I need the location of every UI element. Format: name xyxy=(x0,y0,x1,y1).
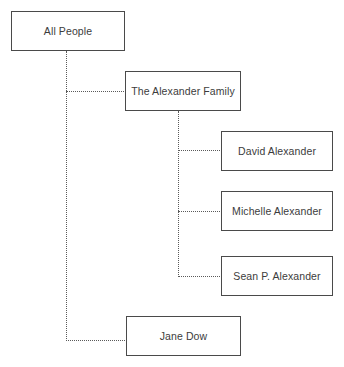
node-jane-dow-label: Jane Dow xyxy=(160,331,208,342)
node-david-alexander[interactable]: David Alexander xyxy=(221,131,333,171)
node-alexander-family-label: The Alexander Family xyxy=(131,86,235,97)
connector-alexander-family-to-michelle xyxy=(178,211,222,212)
node-david-alexander-label: David Alexander xyxy=(238,146,316,157)
connector-alexander-family-to-sean xyxy=(178,276,222,277)
node-sean-p-alexander-label: Sean P. Alexander xyxy=(233,271,320,282)
connector-all-people-to-jane-dow xyxy=(66,340,127,341)
family-tree-diagram: All People The Alexander Family David Al… xyxy=(0,0,344,367)
node-michelle-alexander-label: Michelle Alexander xyxy=(232,206,322,217)
connector-all-people-to-alexander-family xyxy=(66,91,126,92)
node-all-people[interactable]: All People xyxy=(11,11,125,51)
node-all-people-label: All People xyxy=(44,26,92,37)
node-jane-dow[interactable]: Jane Dow xyxy=(126,316,241,356)
connector-alexander-family-to-david xyxy=(178,150,222,151)
node-sean-p-alexander[interactable]: Sean P. Alexander xyxy=(221,256,333,296)
node-michelle-alexander[interactable]: Michelle Alexander xyxy=(221,191,333,231)
node-alexander-family[interactable]: The Alexander Family xyxy=(125,71,241,111)
connector-alexander-family-trunk xyxy=(178,111,179,277)
connector-all-people-trunk xyxy=(66,51,67,341)
